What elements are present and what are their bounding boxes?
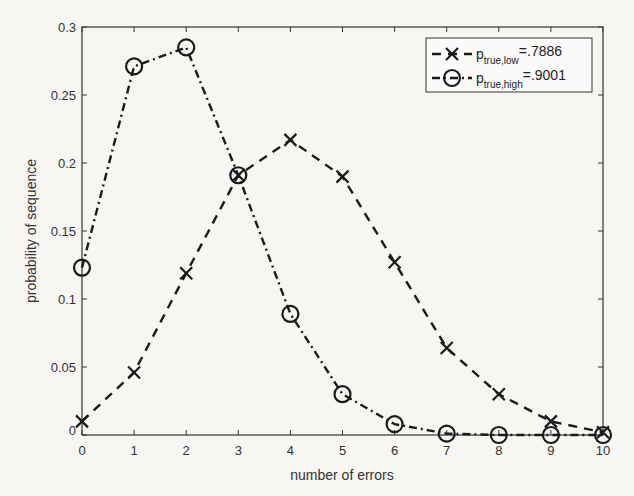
x-marker-icon (128, 366, 140, 378)
y-tick-label: 0.25 (51, 88, 76, 103)
series-line (82, 47, 603, 435)
x-marker-icon (493, 388, 505, 400)
x-tick-label: 3 (235, 443, 242, 458)
x-marker-icon (337, 171, 349, 183)
x-tick-label: 7 (443, 443, 450, 458)
x-tick-label: 9 (547, 443, 554, 458)
x-tick-label: 2 (183, 443, 190, 458)
x-marker-icon (180, 267, 192, 279)
x-tick-label: 4 (287, 443, 294, 458)
x-tick-label: 6 (391, 443, 398, 458)
y-tick-label: 0.3 (58, 20, 76, 35)
x-axis-label: number of errors (290, 467, 393, 483)
chart: 01234567891000.050.10.150.20.250.3 ptrue… (0, 0, 634, 496)
series-line (82, 140, 603, 432)
x-marker-icon (389, 256, 401, 268)
circle-marker-icon (126, 58, 142, 74)
legend: ptrue,low=.7886ptrue,high=.9001 (426, 38, 592, 92)
x-tick-label: 8 (495, 443, 502, 458)
x-marker-icon (441, 342, 453, 354)
y-axis-label: probability of sequence (23, 159, 39, 303)
circle-marker-icon (282, 306, 298, 322)
x-tick-label: 0 (78, 443, 85, 458)
x-tick-label: 10 (596, 443, 610, 458)
circle-marker-icon (178, 39, 194, 55)
y-tick-label: 0.15 (51, 224, 76, 239)
x-tick-label: 5 (339, 443, 346, 458)
circle-marker-icon (335, 386, 351, 402)
plot-series (74, 39, 611, 443)
x-tick-label: 1 (130, 443, 137, 458)
y-tick-label: 0.2 (58, 156, 76, 171)
y-tick-label: 0.05 (51, 360, 76, 375)
y-tick-label: 0.1 (58, 292, 76, 307)
x-marker-icon (284, 134, 296, 146)
y-tick-label: 0 (69, 423, 76, 438)
series-high (74, 39, 611, 443)
